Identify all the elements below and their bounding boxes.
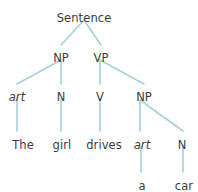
tree-leaf-drives: drives xyxy=(86,139,122,151)
edge-np2-n2 xyxy=(140,100,183,131)
tree-node-n-subject: N xyxy=(57,91,66,103)
tree-node-art-subject: art xyxy=(9,91,26,103)
tree-node-n-object: N xyxy=(178,139,187,151)
tree-leaf-the: The xyxy=(12,139,34,151)
tree-node-np-subject: NP xyxy=(53,52,69,64)
tree-node-sentence: Sentence xyxy=(57,12,112,24)
syntax-tree-diagram: Sentence NP VP art N V NP The girl drive… xyxy=(0,0,198,192)
tree-leaf-car: car xyxy=(175,180,193,192)
tree-node-np-object: NP xyxy=(136,91,152,103)
tree-leaf-girl: girl xyxy=(53,139,72,151)
tree-node-vp: VP xyxy=(93,52,108,64)
tree-leaf-a: a xyxy=(138,180,145,192)
tree-node-art-object: art xyxy=(134,139,151,151)
tree-node-v: V xyxy=(96,91,104,103)
